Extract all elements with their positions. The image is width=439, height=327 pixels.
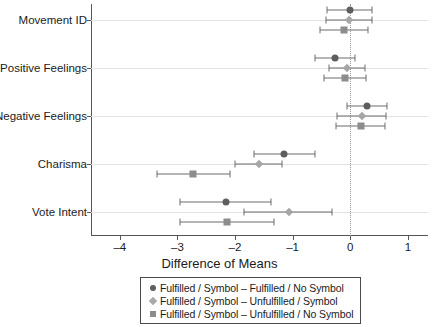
y-axis-tick [87,212,91,213]
y-axis-tick [87,116,91,117]
x-axis-tick [350,236,351,240]
y-axis-tick-label-negative-feelings: Negative Feelings [0,110,87,122]
y-axis-tick-label-charisma: Charisma [38,158,87,170]
y-axis-tick [87,164,91,165]
forest-plot-figure: Movement IDPositive FeelingsNegative Fee… [0,0,439,327]
confidence-interval-cap [347,103,348,110]
x-axis-tick-label: –2 [229,241,242,253]
confidence-interval-cap [327,7,328,14]
data-point-marker [223,199,230,206]
y-axis-tick [87,20,91,21]
data-point-marker [357,123,364,130]
data-point-marker [280,151,287,158]
x-axis-line [91,235,428,236]
x-axis-tick [120,236,121,240]
confidence-interval-cap [372,7,373,14]
zero-line [350,4,351,236]
data-point-marker [345,16,353,24]
confidence-interval-cap [372,17,373,24]
legend-item-label: Fulfilled / Symbol – Unfulfilled / Symbo… [160,295,337,307]
data-point-marker [332,55,339,62]
confidence-interval-cap [385,123,386,130]
confidence-interval-cap [229,171,230,178]
confidence-interval-cap [180,219,181,226]
y-axis-tick-label-positive-feelings: Positive Feelings [0,62,87,74]
data-point-marker [347,7,354,14]
x-axis-tick-label: 0 [347,241,353,253]
confidence-interval-cap [366,75,367,82]
legend-item-label: Fulfilled / Symbol – Fulfilled / No Symb… [160,282,344,294]
x-axis-tick [177,236,178,240]
x-axis-title: Difference of Means [0,256,439,271]
confidence-interval-cap [244,209,245,216]
legend-item[interactable]: Fulfilled / Symbol – Unfulfilled / No Sy… [146,307,353,320]
legend-circle-icon [146,285,160,291]
data-point-marker [284,208,292,216]
x-axis-tick-label: –3 [171,241,184,253]
data-point-marker [358,112,366,120]
gridline [91,68,428,69]
confidence-interval-cap [355,55,356,62]
data-point-marker [363,103,370,110]
x-axis-tick-label: 1 [405,241,411,253]
gridline [91,20,428,21]
confidence-interval-cap [179,199,180,206]
legend-diamond-icon [146,298,160,304]
confidence-interval-cap [387,103,388,110]
x-axis-tick-label: –4 [113,241,126,253]
confidence-interval-cap [254,151,255,158]
plot-area [91,4,428,236]
data-point-marker [189,171,196,178]
confidence-interval-cap [270,199,271,206]
confidence-interval-cap [156,171,157,178]
confidence-interval-cap [336,113,337,120]
confidence-interval-cap [365,65,366,72]
confidence-interval-cap [314,151,315,158]
confidence-interval-cap [335,123,336,130]
x-axis-tick [235,236,236,240]
confidence-interval-cap [332,209,333,216]
confidence-interval-cap [273,219,274,226]
data-point-marker [341,27,348,34]
x-axis-tick [293,236,294,240]
confidence-interval-cap [314,55,315,62]
confidence-interval-cap [320,27,321,34]
legend-square-icon [146,311,160,317]
confidence-interval-cap [282,161,283,168]
data-point-marker [254,160,262,168]
x-axis-tick-label: –1 [286,241,299,253]
legend-item[interactable]: Fulfilled / Symbol – Fulfilled / No Symb… [146,281,353,294]
y-axis-tick-label-movement-id: Movement ID [19,14,87,26]
legend-item-label: Fulfilled / Symbol – Unfulfilled / No Sy… [160,308,353,320]
y-axis-line [91,4,92,236]
y-axis-tick-label-vote-intent: Vote Intent [32,206,87,218]
data-point-marker [342,75,349,82]
confidence-interval-cap [385,113,386,120]
y-axis-tick [87,68,91,69]
data-point-marker [223,219,230,226]
legend-item[interactable]: Fulfilled / Symbol – Unfulfilled / Symbo… [146,294,353,307]
confidence-interval-cap [328,65,329,72]
confidence-interval-cap [326,17,327,24]
x-axis-tick [408,236,409,240]
legend: Fulfilled / Symbol – Fulfilled / No Symb… [140,277,361,324]
confidence-interval-cap [235,161,236,168]
confidence-interval-cap [323,75,324,82]
confidence-interval-cap [367,27,368,34]
